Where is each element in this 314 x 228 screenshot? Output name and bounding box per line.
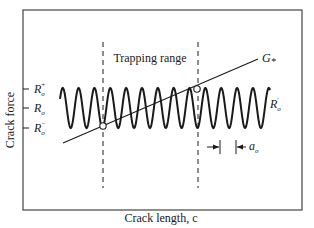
y-tick-label-r0: Ro	[33, 101, 45, 117]
period-arrow-left-head	[213, 145, 219, 150]
y-tick-label-r-minus: Ro−	[33, 120, 46, 137]
period-arrow-right-head	[237, 145, 243, 150]
x-axis-label: Crack length, c	[125, 211, 198, 225]
y-axis-label: Crack force	[3, 92, 17, 148]
trap-point-left	[100, 123, 106, 129]
y-tick-label-r-plus: Ro+	[33, 81, 46, 98]
resistance-wave	[60, 88, 270, 128]
trapping-range-label: Trapping range	[113, 51, 186, 65]
trap-point-right	[194, 86, 200, 92]
period-marker: ao	[207, 139, 259, 155]
trapping-diagram: Ro+ Ro Ro− Crack force Crack length, c T…	[0, 0, 314, 228]
wave-label: Ro'	[269, 96, 281, 113]
period-label: ao	[249, 139, 259, 155]
g-star-label: G*	[262, 51, 276, 67]
y-ticks	[23, 89, 29, 128]
